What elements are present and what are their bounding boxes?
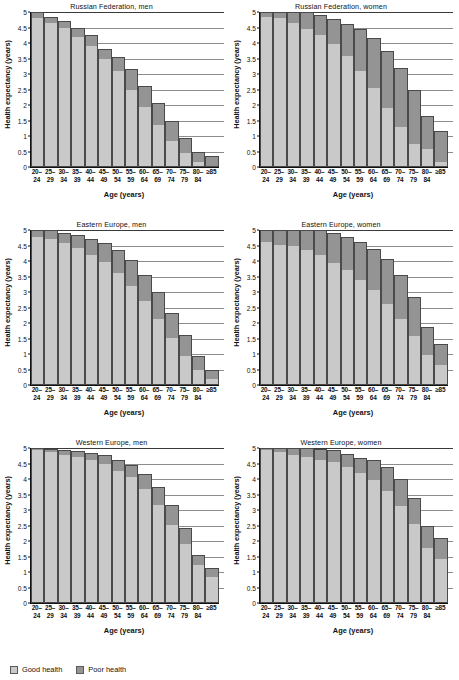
bar-segment-poor-health bbox=[125, 69, 138, 89]
bar-segment-good-health bbox=[434, 559, 447, 603]
bar-stack bbox=[44, 448, 57, 603]
bar-stack bbox=[98, 230, 111, 385]
chart-panel: Eastern Europe, menHealth expectancy (ye… bbox=[0, 218, 229, 436]
x-tick-row: 20–2425–2930–3435–3940–4445–4950–5455–59… bbox=[259, 386, 447, 408]
y-axis-label: Health expectancy (years) bbox=[230, 436, 242, 604]
bar-segment-poor-health bbox=[300, 12, 313, 29]
y-tick-label: 3 bbox=[23, 289, 27, 296]
x-tick-line1: ≥85 bbox=[203, 168, 219, 176]
bar-segment-good-health bbox=[44, 452, 57, 603]
x-tick-line1: ≥85 bbox=[432, 604, 448, 612]
bar-segment-good-health bbox=[314, 460, 327, 603]
bar-stack bbox=[165, 12, 178, 167]
bar-segment-good-health bbox=[314, 255, 327, 385]
bar-stack bbox=[408, 230, 421, 385]
y-tick-label: 4.5 bbox=[18, 242, 27, 249]
y-axis-label-text: Health expectancy (years) bbox=[3, 40, 12, 129]
bar-segment-good-health bbox=[192, 370, 205, 385]
bar-series bbox=[260, 12, 448, 167]
bar-segment-poor-health bbox=[205, 370, 218, 379]
x-axis-label: Age (years) bbox=[259, 190, 447, 199]
bar-segment-poor-health bbox=[152, 103, 165, 125]
x-axis-label: Age (years) bbox=[30, 626, 218, 635]
bar-segment-good-health bbox=[58, 455, 71, 603]
bar-stack bbox=[31, 230, 44, 385]
y-tick-label: 1.5 bbox=[247, 335, 256, 342]
y-tick-label: 4 bbox=[23, 476, 27, 483]
bar-segment-good-health bbox=[205, 577, 218, 603]
plot-wrapper: 54.543.532.521.510.5020–2425–2930–3435–3… bbox=[13, 448, 223, 616]
panel-title: Russian Federation, men bbox=[0, 2, 223, 11]
panel-title: Eastern Europe, women bbox=[229, 220, 453, 229]
bar-segment-poor-health bbox=[98, 455, 111, 464]
bar-segment-poor-health bbox=[31, 230, 44, 237]
bar-segment-good-health bbox=[85, 460, 98, 603]
bar-segment-poor-health bbox=[112, 250, 125, 272]
x-tick-label: ≥85 bbox=[432, 168, 448, 176]
bar-segment-good-health bbox=[434, 365, 447, 385]
bar-segment-poor-health bbox=[152, 292, 165, 319]
bar-segment-poor-health bbox=[125, 465, 138, 477]
bar-segment-poor-health bbox=[287, 230, 300, 246]
y-axis-label-text: Health expectancy (years) bbox=[232, 40, 241, 129]
y-tick-label: 3 bbox=[23, 71, 27, 78]
chart-panel: Western Europe, womenHealth expectancy (… bbox=[229, 436, 459, 658]
bar-stack bbox=[394, 230, 407, 385]
bar-stack bbox=[260, 448, 273, 603]
bar-series bbox=[31, 230, 219, 385]
bar-segment-good-health bbox=[381, 108, 394, 167]
legend-swatch-good-health bbox=[10, 666, 18, 674]
bar-segment-good-health bbox=[408, 144, 421, 167]
bar-stack bbox=[260, 230, 273, 385]
bar-stack bbox=[408, 448, 421, 603]
bar-stack bbox=[192, 230, 205, 385]
bar-stack bbox=[138, 230, 151, 385]
bar-segment-good-health bbox=[152, 505, 165, 603]
y-tick-label: 4 bbox=[252, 476, 256, 483]
bar-segment-poor-health bbox=[327, 450, 340, 462]
bar-stack bbox=[287, 448, 300, 603]
bar-segment-good-health bbox=[260, 242, 273, 385]
x-tick-line1: ≥85 bbox=[203, 386, 219, 394]
bar-segment-good-health bbox=[44, 23, 57, 167]
bar-stack bbox=[300, 12, 313, 167]
bar-segment-good-health bbox=[408, 336, 421, 385]
bar-stack bbox=[205, 448, 218, 603]
y-tick-label: 5 bbox=[23, 9, 27, 16]
y-tick-label: 4 bbox=[252, 258, 256, 265]
bar-stack bbox=[125, 448, 138, 603]
bar-stack bbox=[381, 230, 394, 385]
bar-segment-poor-health bbox=[408, 297, 421, 336]
bar-segment-poor-health bbox=[434, 538, 447, 559]
bar-segment-poor-health bbox=[138, 275, 151, 301]
bar-segment-good-health bbox=[273, 452, 286, 603]
y-axis-label: Health expectancy (years) bbox=[230, 218, 242, 386]
bar-stack bbox=[314, 448, 327, 603]
y-tick-label: 1.5 bbox=[247, 553, 256, 560]
y-tick-column: 54.543.532.521.510.50 bbox=[13, 12, 30, 167]
chart-panel: Western Europe, menHealth expectancy (ye… bbox=[0, 436, 229, 658]
y-tick-label: 2 bbox=[23, 102, 27, 109]
bar-segment-poor-health bbox=[205, 156, 218, 166]
bar-segment-poor-health bbox=[165, 313, 178, 338]
bar-stack bbox=[314, 12, 327, 167]
bar-segment-poor-health bbox=[192, 555, 205, 565]
bar-stack bbox=[112, 230, 125, 385]
y-tick-label: 4.5 bbox=[18, 24, 27, 31]
bar-series bbox=[260, 448, 448, 603]
y-tick-label: 4.5 bbox=[247, 24, 256, 31]
y-tick-column: 54.543.532.521.510.50 bbox=[13, 448, 30, 603]
bar-stack bbox=[421, 12, 434, 167]
bar-segment-poor-health bbox=[71, 28, 84, 37]
y-tick-label: 0.5 bbox=[18, 584, 27, 591]
bar-segment-poor-health bbox=[327, 19, 340, 44]
y-tick-label: 1 bbox=[23, 351, 27, 358]
bar-segment-good-health bbox=[300, 457, 313, 603]
bar-segment-poor-health bbox=[98, 49, 111, 58]
bar-stack bbox=[381, 12, 394, 167]
x-tick-line2: 84 bbox=[190, 612, 206, 621]
y-axis-label-text: Health expectancy (years) bbox=[3, 258, 12, 347]
panel-title: Eastern Europe, men bbox=[0, 220, 223, 229]
bar-segment-poor-health bbox=[394, 275, 407, 319]
y-tick-label: 4.5 bbox=[247, 242, 256, 249]
